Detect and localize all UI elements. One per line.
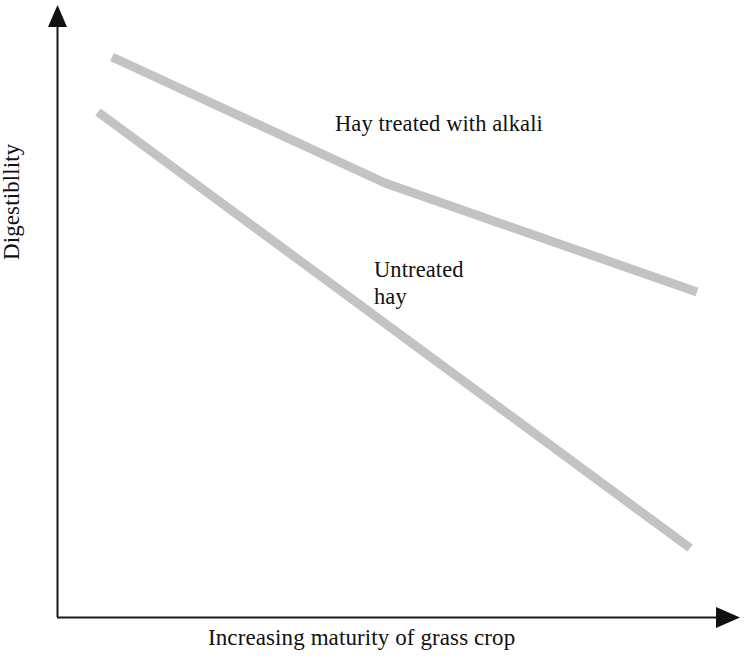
x-axis-label: Increasing maturity of grass crop: [208, 626, 515, 649]
series-label-untreated-hay-line1: Untreated: [374, 257, 464, 282]
series-label-untreated-hay-line2: hay: [374, 283, 464, 310]
chart-canvas: [0, 0, 744, 659]
y-axis-label: Digestibllity: [0, 60, 23, 260]
series-label-untreated-hay: Untreatedhay: [374, 256, 464, 311]
series-label-hay-treated-with-alkali: Hay treated with alkali: [335, 113, 543, 136]
x-axis-arrow-icon: [716, 607, 740, 628]
chart-figure: Digestibllity Increasing maturity of gra…: [0, 0, 744, 659]
y-axis-arrow-icon: [48, 5, 67, 27]
series-line-untreated-hay: [98, 112, 690, 548]
axes-group: [48, 5, 740, 628]
